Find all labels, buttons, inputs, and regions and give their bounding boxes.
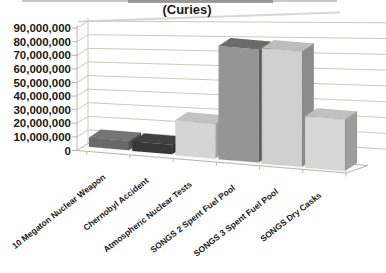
bar-side-face (345, 112, 357, 171)
gridline (77, 21, 386, 28)
y-axis: 010,000,00020,000,00030,000,00040,000,00… (13, 22, 77, 156)
y-axis-tick-label: 50,000,000 (13, 77, 71, 89)
y-axis-tick-label: 0 (65, 145, 71, 157)
bar-songs-dry-casks (305, 108, 357, 171)
y-axis-tick-label: 10,000,000 (13, 131, 71, 143)
y-axis-tick-label: 60,000,000 (13, 63, 71, 75)
bar-front-face (305, 116, 345, 171)
y-axis-tick-label: 80,000,000 (13, 36, 71, 48)
y-axis-tick-label: 90,000,000 (13, 22, 71, 34)
x-axis-tick (173, 159, 174, 163)
y-axis-tick-label: 20,000,000 (13, 117, 71, 129)
x-axis-category-label: Atmospheric Nuclear Tests (101, 179, 194, 254)
x-axis-tick (216, 162, 217, 166)
x-axis-tick (346, 173, 347, 177)
x-axis-category-label: SONGS 2 Spent Fuel Pool (148, 183, 236, 255)
x-axis-category-label: SONGS 3 Spent Fuel Pool (192, 186, 280, 258)
x-axis-category-label: 10 Megaton Nuclear Weapon (10, 172, 107, 251)
chart-title: (Curies) (162, 2, 211, 17)
radioactivity-bar-chart: 010,000,00020,000,00030,000,00040,000,00… (0, 0, 386, 273)
y-axis-tick-label: 30,000,000 (13, 104, 71, 116)
bar-front-face (219, 46, 259, 163)
y-axis-tick-label: 40,000,000 (13, 90, 71, 102)
x-axis-tick (130, 155, 131, 159)
chart-image: 010,000,00020,000,00030,000,00040,000,00… (0, 0, 386, 273)
x-axis-tick (259, 166, 260, 170)
bar-front-face (262, 48, 302, 167)
bar-front-face (175, 120, 215, 158)
x-axis-tick (87, 151, 88, 155)
x-axis-tick (303, 169, 304, 173)
y-axis-tick-label: 70,000,000 (13, 49, 71, 61)
